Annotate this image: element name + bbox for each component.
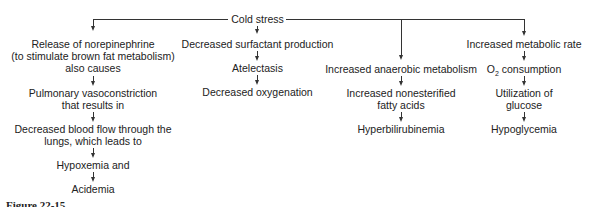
node: Increased nonesterified [318,87,484,99]
node: Decreased blood flow through the [0,123,186,135]
node: Acidemia [0,183,186,195]
node: Atelectasis [180,62,335,74]
connector-line [286,19,524,20]
arrow-icon [522,31,526,36]
node: Pulmonary vasoconstriction [0,87,186,99]
node: Decreased oxygenation [180,86,335,98]
connector-line [401,19,402,55]
arrow-icon [255,56,259,61]
arrow-icon [522,117,526,122]
arrow-icon [522,56,526,61]
node: Utilization of [464,87,584,99]
arrow-icon [255,80,259,85]
arrow-icon [91,153,95,158]
node: (to stimulate brown fat metabolism) [0,50,186,62]
node: Hypoglycemia [464,123,584,135]
node: Hyperbilirubinemia [318,123,484,135]
node: also causes [0,62,186,74]
arrow-icon [91,81,95,86]
root-node: Cold stress [229,13,286,25]
arrow-icon [91,117,95,122]
node: lungs, which leads to [0,135,186,147]
node: fatty acids [318,99,484,111]
arrow-icon [91,177,95,182]
arrow-icon [255,29,259,34]
arrow-icon [399,117,403,122]
node: Release of norepinephrine [0,38,186,50]
node: glucose [464,99,584,111]
arrow-icon [91,26,95,31]
arrow-icon [399,81,403,86]
node: that results in [0,99,186,111]
connector-line [93,19,228,20]
node: Hypoxemia and [0,159,186,171]
node: Increased metabolic rate [464,38,584,50]
node: Decreased surfactant production [180,38,335,50]
arrow-icon [522,81,526,86]
node: Increased anaerobic metabolism [318,63,484,75]
figure-caption: Figure 22-15 [6,199,65,207]
arrow-icon [399,55,403,60]
